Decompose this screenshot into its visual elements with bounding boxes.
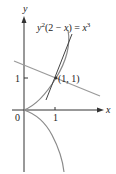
- x-tick-label: 1: [53, 112, 58, 123]
- curve-lower-branch: [24, 110, 64, 172]
- x-axis-arrow-icon: [97, 108, 104, 113]
- steep-line: [46, 34, 72, 100]
- origin-label: 0: [15, 112, 20, 123]
- cissoid-diagram: y x 0 1 1 (1, 1) y2(2 − x) = x3: [0, 0, 116, 174]
- y-axis-label: y: [22, 3, 28, 14]
- x-axis-label: x: [105, 104, 111, 115]
- y-tick-label: 1: [15, 73, 20, 84]
- point-label: (1, 1): [58, 73, 80, 85]
- y-axis-arrow-icon: [22, 16, 27, 23]
- equation-label: y2(2 − x) = x3: [36, 21, 91, 34]
- point-1-1: [55, 77, 58, 80]
